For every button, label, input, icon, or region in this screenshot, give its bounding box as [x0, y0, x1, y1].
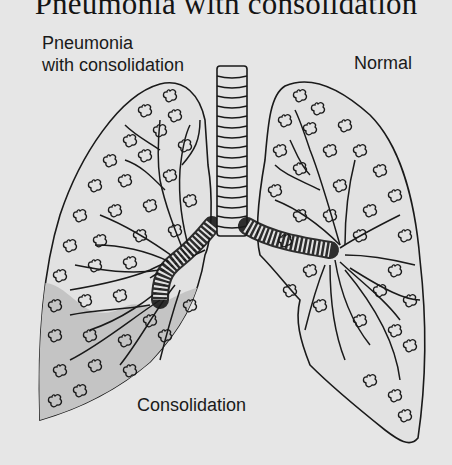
- left-lung: [20, 83, 220, 465]
- trachea: [217, 66, 247, 236]
- lung-diagram: [0, 0, 452, 465]
- right-lung: [247, 82, 425, 443]
- consolidation-region: [20, 283, 220, 465]
